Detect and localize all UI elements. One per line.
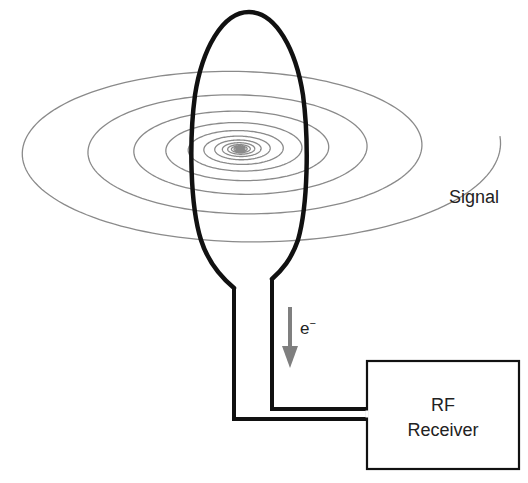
receiver-label-line1: RF xyxy=(431,395,455,415)
wire-outer xyxy=(234,288,367,419)
electron-label: e− xyxy=(300,317,316,338)
signal-wave-spiral xyxy=(22,71,500,242)
wire-inner xyxy=(272,279,367,409)
signal-label: Signal xyxy=(449,187,499,207)
rf-loop-antenna-diagram: RF Receiver e− Signal xyxy=(0,0,528,483)
electron-current-arrow-icon xyxy=(282,307,298,368)
receiver-label-line2: Receiver xyxy=(407,420,478,440)
rf-receiver-box xyxy=(367,361,519,469)
